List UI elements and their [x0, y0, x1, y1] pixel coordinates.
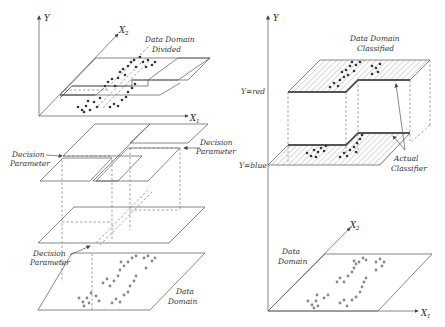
decision-bottom-label-1: Decision [32, 249, 66, 258]
diagram-svg: Y X1 X2 Data Domain Divided [0, 0, 445, 327]
decision-right-label-2: Parameter [195, 147, 236, 156]
right-panel: Y X1 X2 Data Domain Classified Y=red Y=b… [239, 13, 432, 319]
right-data-domain-dots [307, 257, 386, 310]
divided-plane [60, 45, 210, 108]
right-x2-axis-label: X2 [349, 220, 360, 231]
left-axes: Y X1 X2 [39, 13, 200, 124]
left-y-axis-label: Y [44, 13, 51, 23]
left-data-domain-dots [78, 255, 157, 308]
left-bottom-label-1: Data [175, 287, 194, 296]
classified-bottom-plane [268, 133, 410, 165]
left-panel: Y X1 X2 Data Domain Divided [9, 13, 236, 310]
right-y-axis-label: Y [273, 13, 280, 23]
left-bottom-label-2: Domain [167, 297, 198, 306]
decision-left-label-1: Decision [11, 150, 45, 159]
y-red-label: Y=red [241, 87, 265, 96]
left-top-label-2: Divided [151, 45, 181, 54]
right-bottom-label-1: Data [281, 247, 300, 256]
y-blue-label: Y=blue [239, 161, 267, 170]
left-x2-axis-label: X2 [118, 25, 129, 36]
left-x1-axis-label: X1 [189, 113, 200, 124]
left-top-label-1: Data Domain [144, 35, 195, 44]
diagram: Y X1 X2 Data Domain Divided [0, 0, 445, 327]
right-x1-axis-label: X1 [420, 308, 431, 319]
right-top-label-2: Classified [357, 44, 394, 53]
right-bottom-label-2: Domain [277, 257, 308, 266]
classifier-label-2: Classifier [391, 164, 427, 173]
decision-left-label-2: Parameter [9, 159, 50, 168]
classifier-label-1: Actual [393, 154, 419, 163]
decision-right-label-1: Decision [199, 138, 233, 147]
right-top-label-1: Data Domain [349, 34, 400, 43]
